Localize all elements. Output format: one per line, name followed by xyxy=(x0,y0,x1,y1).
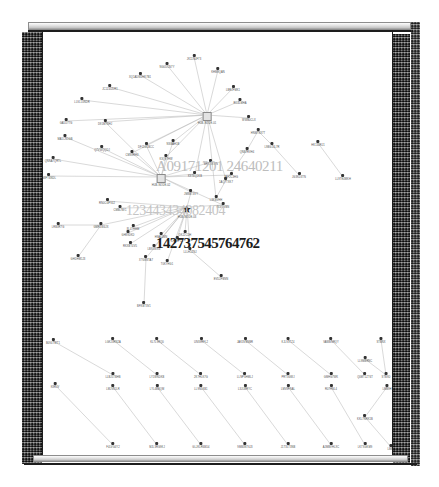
graph-node[interactable]: CMS9RH4 xyxy=(125,150,138,157)
dot-node-icon xyxy=(108,84,111,87)
graph-node[interactable]: LMV8FNAL xyxy=(281,384,295,391)
graph-node-label: LB91WXG xyxy=(148,248,161,251)
graph-node[interactable]: JAK3VBNBR xyxy=(237,337,253,344)
dot-node-icon xyxy=(183,230,186,233)
graph-node[interactable]: LGKJ3RN2A xyxy=(105,337,121,344)
graph-node[interactable]: LLBJ5TBHB xyxy=(105,372,120,379)
graph-node[interactable]: EVD2FBNN xyxy=(214,274,229,281)
graph-node-label: LY1WNDKB xyxy=(150,376,165,379)
graph-hub-node[interactable]: ★HUB-NODE-03 xyxy=(178,204,197,219)
graph-node[interactable]: KJLV3TZ4 xyxy=(282,337,295,344)
graph-node[interactable]: STB9D xyxy=(382,372,391,379)
graph-node[interactable]: LLVL10NDR xyxy=(74,97,89,104)
graph-hub-node[interactable]: HUB-NODE-02 xyxy=(152,174,171,187)
graph-node[interactable]: QNB7RVH4 xyxy=(240,147,255,154)
graph-node[interactable]: 9MB3NT6J3 xyxy=(237,442,252,449)
graph-node[interactable]: KHM9QAN xyxy=(211,67,225,74)
dot-node-icon xyxy=(287,384,290,387)
graph-canvas[interactable]: HUB-NODE-01HUB-NODE-02★HUB-NODE-03NG0DCN… xyxy=(42,32,393,455)
graph-node[interactable]: 1AQ7TXK7 xyxy=(219,177,233,184)
graph-edge xyxy=(157,340,201,375)
graph-node[interactable]: LMB9H xyxy=(382,384,391,391)
graph-node[interactable]: K8RJV xyxy=(51,382,60,389)
graph-node[interactable]: D91M7NHJ xyxy=(98,119,112,126)
graph-node[interactable]: LBRJFMK1 xyxy=(226,85,240,92)
graph-node[interactable]: CHK8P1Z xyxy=(171,236,183,243)
graph-node[interactable]: JK11N4F73 xyxy=(187,54,201,61)
graph-node[interactable]: RC4LMHA xyxy=(233,98,246,105)
graph-node[interactable]: LLLH1ZNJ xyxy=(183,247,196,254)
graph-node[interactable]: BLVDVBN xyxy=(217,202,230,209)
graph-node[interactable]: F4LVG4Y2 xyxy=(106,442,119,449)
graph-node[interactable]: H9A61MN xyxy=(155,232,168,239)
graph-node-label: GMHG7WK xyxy=(324,376,338,379)
graph-node[interactable]: RN0CGFV4J xyxy=(99,198,115,205)
dot-node-icon xyxy=(329,372,332,375)
graph-node[interactable]: BFXBT3V1 xyxy=(137,301,151,308)
graph-node[interactable]: L3JLWRYC xyxy=(238,384,252,391)
graph-node[interactable]: J1T3LT3NB xyxy=(281,442,296,449)
graph-hub-node[interactable]: HUB-NODE-01 xyxy=(198,112,217,125)
graph-node[interactable]: NG0DCN7Y xyxy=(160,62,175,69)
graph-node[interactable]: T0KYHG1 xyxy=(161,259,174,266)
graph-node[interactable]: LMB9 xyxy=(387,444,393,451)
graph-node[interactable]: JC1Z4UDR1 xyxy=(102,84,118,91)
dot-node-icon xyxy=(100,222,103,225)
graph-node[interactable]: MJL3RG9KJ xyxy=(149,442,165,449)
graph-node[interactable]: CMBLNV1 xyxy=(114,205,127,212)
graph-node[interactable]: K9T6Q1KB xyxy=(188,171,202,178)
graph-node[interactable]: AJMBVHLXC xyxy=(323,442,339,449)
graph-node[interactable]: JG3KD3TN xyxy=(292,172,306,179)
graph-node[interactable]: PRT3GWJ xyxy=(281,372,294,379)
dot-node-icon xyxy=(330,337,333,340)
graph-node[interactable]: NSBAH1B xyxy=(167,139,180,146)
horizontal-scrollbar-bottom[interactable] xyxy=(33,455,408,462)
graph-node[interactable]: QNNA7QRTL xyxy=(45,156,62,163)
graph-node[interactable]: LYL4BBQM xyxy=(150,384,164,391)
graph-node[interactable]: XTG8STA7 xyxy=(139,255,153,262)
graph-node[interactable]: B0V4TWT1 xyxy=(46,338,60,345)
graph-node[interactable]: UNS9RFL2 xyxy=(194,337,208,344)
graph-node-label: R07HNL4 xyxy=(325,388,337,391)
graph-node[interactable]: N8FT6NDL xyxy=(42,173,56,180)
graph-node[interactable]: LL9MBRNC xyxy=(358,356,373,363)
graph-node[interactable]: RKXBT4V5 xyxy=(123,241,137,248)
graph-node[interactable]: STBNX xyxy=(376,337,385,344)
graph-node[interactable]: GH89DKD xyxy=(122,230,135,237)
graph-node[interactable]: LL9TE4MKH xyxy=(335,174,351,181)
graph-node[interactable]: KL7L9RQ0 xyxy=(150,337,164,344)
graph-node[interactable]: XQ1ADW2HK7B1 xyxy=(129,72,151,79)
graph-node[interactable]: LMJV8JLR xyxy=(106,384,120,391)
graph-node[interactable]: GMHG7WK xyxy=(324,372,338,379)
graph-node[interactable]: 2K7HLK7G xyxy=(194,372,208,379)
graph-node[interactable]: LRB3R7G xyxy=(52,222,65,229)
graph-node[interactable]: Q7VWQQDJ xyxy=(94,145,110,152)
graph-node[interactable]: R07HNL4 xyxy=(325,384,337,391)
graph-node[interactable]: DFJ1G1BCC xyxy=(138,142,154,149)
dot-node-icon xyxy=(166,259,169,262)
graph-edge xyxy=(82,100,207,115)
graph-node[interactable]: MA1CN1GB xyxy=(57,134,72,141)
graph-node[interactable]: VAWBNRQY xyxy=(323,337,339,344)
graph-node[interactable]: Q0MT1ZT6T xyxy=(357,372,373,379)
graph-node[interactable]: KKL7NRK1B xyxy=(357,414,373,421)
graph-node[interactable]: LY1WNDKB xyxy=(150,372,165,379)
graph-node[interactable]: GMR1W4JX xyxy=(93,222,108,229)
graph-node[interactable]: LB91WXG xyxy=(148,244,161,251)
graph-node[interactable]: GA5D77G xyxy=(60,118,73,125)
graph-node[interactable]: HNMT8X7T xyxy=(251,128,266,135)
graph-node[interactable]: LL9NLKB1 xyxy=(194,384,207,391)
graph-node[interactable]: BRKDXWN xyxy=(204,159,218,166)
graph-node[interactable]: GHDHM1J3 xyxy=(71,254,86,261)
graph-node[interactable]: HK134RJ1 xyxy=(311,140,324,147)
graph-node[interactable]: L3KBVHH xyxy=(210,195,223,202)
dot-node-icon xyxy=(330,384,333,387)
graph-node[interactable]: LK7XGKM9 xyxy=(358,442,373,449)
graph-node[interactable]: LLNPSHMLJ xyxy=(237,372,253,379)
graph-node[interactable]: L9BG13L7R xyxy=(264,142,279,149)
graph-node[interactable]: GLJKLR6BD4 xyxy=(192,442,209,449)
graph-node[interactable]: JM8BT3VY xyxy=(184,189,198,196)
horizontal-scrollbar-top[interactable] xyxy=(28,22,411,30)
graph-node[interactable]: K3Q9THW xyxy=(159,154,172,161)
graph-node[interactable]: WWB0CLX xyxy=(242,115,256,122)
